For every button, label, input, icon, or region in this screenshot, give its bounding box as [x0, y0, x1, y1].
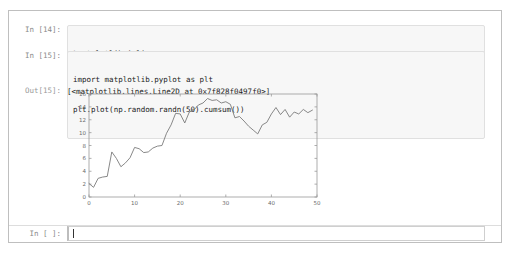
- prompt-in-empty: In [ ]:: [9, 226, 67, 239]
- svg-text:20: 20: [177, 200, 184, 206]
- code-line: import matplotlib.pyplot as plt: [73, 75, 479, 85]
- prompt-out-15: Out[15]:: [9, 86, 67, 96]
- svg-text:6: 6: [83, 155, 87, 161]
- screenshot-root: In [14]: %matplotlib inline In [15]: imp…: [0, 0, 511, 254]
- matplotlib-figure: 010203040500246810121416: [67, 89, 327, 217]
- svg-text:30: 30: [222, 200, 229, 206]
- svg-text:4: 4: [83, 168, 87, 174]
- active-code-input[interactable]: [67, 226, 485, 241]
- svg-text:50: 50: [314, 200, 321, 206]
- notebook-cell-active[interactable]: In [ ]:: [9, 226, 501, 242]
- prompt-in-15: In [15]:: [9, 51, 67, 61]
- svg-text:0: 0: [83, 194, 87, 200]
- svg-text:14: 14: [79, 104, 86, 110]
- svg-text:8: 8: [83, 143, 87, 149]
- svg-text:2: 2: [83, 181, 87, 187]
- prompt-in-14: In [14]:: [9, 25, 67, 35]
- svg-text:40: 40: [268, 200, 275, 206]
- svg-text:16: 16: [79, 91, 86, 97]
- notebook-content: In [14]: %matplotlib inline In [15]: imp…: [9, 11, 501, 242]
- notebook-frame: In [14]: %matplotlib inline In [15]: imp…: [8, 10, 502, 243]
- svg-text:10: 10: [79, 130, 86, 136]
- svg-text:12: 12: [79, 117, 86, 123]
- line-plot-svg: 010203040500246810121416: [67, 89, 327, 217]
- svg-text:10: 10: [131, 200, 138, 206]
- text-caret: [73, 229, 74, 238]
- svg-text:0: 0: [87, 200, 91, 206]
